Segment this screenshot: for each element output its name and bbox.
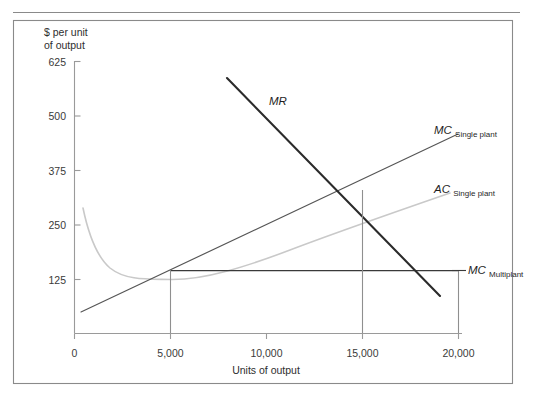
y-tick-label-375: 375 (48, 165, 66, 177)
curve-mr (227, 78, 440, 296)
series-label-mc-multiplant-main: MC (468, 264, 487, 276)
y-tick-label-125: 125 (48, 274, 66, 286)
y-tick-label-250: 250 (48, 219, 66, 231)
y-axis-label-line1: $ per unit (44, 26, 88, 38)
series-label-mr-main: MR (269, 95, 287, 107)
series-label-mc-single-plant-main: MC (434, 124, 453, 136)
series-label-mc-multiplant-sub: Multiplant (489, 270, 524, 279)
x-tick-label-0: 0 (72, 347, 78, 359)
figure-frame (13, 13, 520, 384)
y-tick-label-625: 625 (48, 56, 66, 68)
x-tick-label-15000: 15,000 (346, 347, 378, 359)
x-tick-label-5000: 5,000 (157, 347, 183, 359)
curve-ac-single-plant (83, 193, 450, 280)
series-label-mc-single-plant-sub: Single plant (455, 130, 498, 139)
x-tick-label-20000: 20,000 (442, 347, 474, 359)
x-tick-label-10000: 10,000 (250, 347, 282, 359)
series-label-ac-single-plant-sub: Single plant (453, 189, 496, 198)
y-axis-label-line2: of output (44, 39, 85, 51)
series-label-mc-single-plant: MC Single plant (434, 124, 498, 139)
series-label-ac-single-plant-main: AC (433, 183, 451, 195)
series-label-mc-multiplant: MC Multiplant (468, 264, 524, 279)
series-label-mr: MR (269, 95, 287, 107)
figure-container: $ per unit of output 625 500 375 250 125… (0, 0, 533, 396)
y-tick-label-500: 500 (48, 110, 66, 122)
curve-mc-single-plant (81, 134, 458, 312)
frame-border (14, 21, 513, 384)
x-axis-label: Units of output (232, 364, 300, 376)
